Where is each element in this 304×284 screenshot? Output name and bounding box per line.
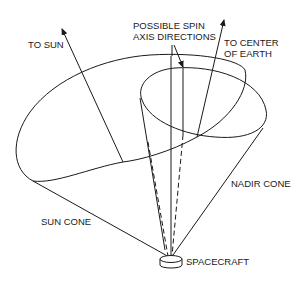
- nadir-cone-ellipse: [141, 68, 267, 138]
- spacecraft-icon: [160, 256, 182, 269]
- label-nadir-cone: NADIR CONE: [231, 178, 291, 189]
- label-to-earth-1: TO CENTER: [224, 37, 279, 48]
- spin-axis-lines: [148, 45, 183, 256]
- sun-cone: [16, 54, 246, 258]
- label-spin-axis-1: POSSIBLE SPIN: [133, 20, 205, 31]
- spin-axis-pointer-2: [174, 45, 183, 67]
- label-spacecraft: SPACECRAFT: [186, 256, 249, 267]
- spin-axis-dashed-right: [172, 135, 183, 256]
- nadir-cone-right-edge: [173, 128, 263, 255]
- label-to-earth-2: OF EARTH: [224, 48, 272, 59]
- to-sun-arrow: [62, 29, 123, 162]
- spin-axis-geometry-diagram: TO SUN POSSIBLE SPIN AXIS DIRECTIONS TO …: [0, 0, 304, 284]
- label-to-sun: TO SUN: [28, 39, 64, 50]
- spin-axis-dashed-left: [148, 142, 168, 256]
- nadir-cone: [140, 68, 267, 255]
- label-spin-axis-2: AXIS DIRECTIONS: [133, 31, 216, 42]
- label-sun-cone: SUN CONE: [41, 216, 91, 227]
